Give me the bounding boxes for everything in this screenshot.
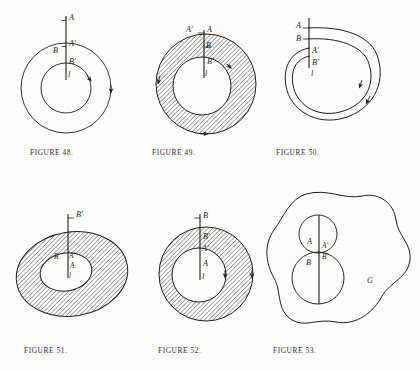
- figure-51: B′ B A′ A l: [10, 196, 144, 336]
- label-l: l: [68, 70, 71, 79]
- label-A-prime: A′: [185, 25, 193, 34]
- upper-circle-boundary: [299, 215, 337, 253]
- lower-circle-boundary: [292, 252, 344, 304]
- figure-plate: A A′ B B′ l FIGURE 48.: [0, 0, 420, 371]
- label-A-prime: A′: [311, 46, 319, 55]
- annulus-hatching: [148, 196, 278, 336]
- figure-50: A B A′ B′ l: [274, 6, 414, 138]
- label-B: B: [206, 41, 211, 50]
- figure-52: B B′ A′ A l: [148, 196, 278, 336]
- spiral-direction-arrow-inner: [360, 80, 362, 86]
- label-B-prime: B′: [207, 57, 214, 66]
- figure-50-caption: FIGURE 50.: [276, 148, 319, 157]
- label-A: A: [306, 237, 313, 246]
- label-B: B: [203, 211, 208, 220]
- label-B: B: [53, 46, 58, 55]
- figure-53-caption: FIGURE 53.: [273, 346, 316, 355]
- label-A: A: [202, 259, 209, 268]
- label-B: B: [306, 258, 311, 267]
- label-B: B: [296, 34, 301, 43]
- label-B-prime: B′: [322, 253, 328, 261]
- label-A-prime: A′: [68, 39, 76, 48]
- label-A: A: [69, 262, 75, 270]
- label-A-prime: A′: [201, 244, 209, 253]
- label-l: l: [311, 69, 314, 78]
- label-A: A: [68, 13, 75, 22]
- region-G-boundary: [267, 192, 410, 323]
- label-B-prime: B′: [76, 210, 83, 219]
- label-l: l: [69, 272, 71, 280]
- label-A: A: [295, 21, 302, 30]
- figure-52-caption: FIGURE 52.: [158, 346, 201, 355]
- figure-53: A A′ B′ B G: [262, 186, 418, 336]
- label-A: A: [206, 25, 213, 34]
- figure-48-caption: FIGURE 48.: [30, 148, 73, 157]
- label-B-prime: B′: [203, 232, 210, 241]
- label-A-prime: A′: [321, 242, 328, 250]
- label-G: G: [367, 276, 373, 285]
- spiral-direction-arrow-outer: [367, 96, 370, 102]
- figure-48: A A′ B B′ l: [6, 6, 140, 138]
- label-B: B: [54, 253, 59, 261]
- label-A-prime: A′: [68, 252, 75, 260]
- figure-49-caption: FIGURE 49.: [152, 148, 195, 157]
- label-B-prime: B′: [69, 57, 76, 66]
- label-B-prime: B′: [312, 58, 319, 67]
- spiral-inner-arm: [292, 39, 371, 114]
- figure-49: A′ A B B′ l: [142, 6, 276, 138]
- figure-51-caption: FIGURE 51.: [24, 346, 67, 355]
